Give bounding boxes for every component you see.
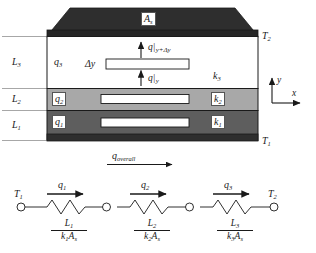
resistor-3 — [213, 200, 256, 214]
flux-in-label: q|y — [148, 73, 159, 83]
resistor-1 — [47, 200, 90, 214]
thickness-label-l2: L2 — [12, 94, 21, 104]
network-flow-label-q3: q3 — [224, 180, 232, 190]
control-volume-layer2 — [101, 95, 189, 104]
network-label-t1: T1 — [14, 189, 23, 199]
resistance-network — [17, 194, 278, 214]
heat-flow-label-q1: q1 — [52, 115, 66, 129]
resistance-value-1: L1 k1As — [51, 219, 87, 242]
heat-flow-label-q3: q3 — [54, 57, 62, 67]
thickness-label-l3: L3 — [12, 57, 21, 67]
thickness-label-l1: L1 — [12, 120, 21, 130]
axis-label-y: y — [277, 75, 281, 85]
temperature-t2-label: T2 — [262, 31, 271, 41]
axis-label-x: x — [292, 88, 296, 98]
dimension-lines — [2, 37, 46, 141]
bottom-strip — [47, 134, 258, 141]
resistance-value-2: L2 k2As — [134, 219, 170, 242]
control-volume-layer1 — [101, 118, 189, 127]
node-mid-2 — [186, 203, 194, 211]
node-mid-1 — [103, 203, 111, 211]
heat-transfer-figure: As T2 T1 L3 L2 L1 q3 q2 q1 k3 k2 k1 Δy q… — [0, 0, 316, 253]
node-t1 — [17, 203, 25, 211]
network-flow-label-q1: q1 — [58, 180, 66, 190]
network-label-t2: T2 — [268, 189, 277, 199]
conductivity-label-k2: k2 — [211, 92, 225, 106]
resistance-value-3: L3 k3As — [217, 219, 253, 242]
flux-out-label: q|y+Δy — [148, 42, 171, 52]
network-flow-label-q2: q2 — [141, 180, 149, 190]
conductivity-label-k3: k3 — [213, 71, 221, 81]
control-volume-layer3 — [106, 59, 189, 69]
area-label: As — [141, 12, 156, 26]
conductivity-label-k1: k1 — [211, 115, 225, 129]
q-overall-label: qoverall — [112, 151, 135, 161]
node-t2 — [270, 203, 278, 211]
temperature-t1-label: T1 — [262, 136, 271, 146]
delta-y-label: Δy — [85, 59, 95, 69]
heat-flow-label-q2: q2 — [52, 92, 66, 106]
resistor-2 — [130, 200, 173, 214]
